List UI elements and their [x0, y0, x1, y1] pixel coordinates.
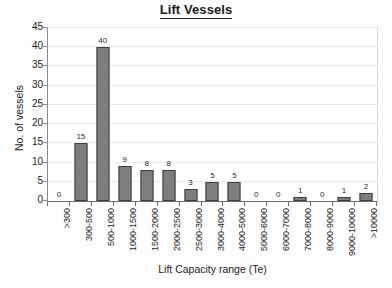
x-category-label: 8000-9000: [325, 208, 335, 251]
bar-chart: Lift Vessels No. of vessels 015409883550…: [0, 0, 392, 288]
bar-slot: 0: [245, 28, 267, 201]
bar-slot: 3: [180, 28, 202, 201]
bar-value-label: 8: [166, 159, 170, 168]
x-category-label: 500-1000: [106, 208, 116, 246]
y-tick-mark: [43, 162, 47, 163]
y-tick-mark: [43, 104, 47, 105]
bar-slot: 0: [311, 28, 333, 201]
y-tick-mark: [43, 142, 47, 143]
bar-value-label: 9: [123, 155, 127, 164]
y-tick-label: 35: [13, 59, 43, 70]
x-category-label: 6000-7000: [281, 208, 291, 251]
x-tick-mark: [376, 202, 377, 206]
x-tick-mark: [288, 202, 289, 206]
bar-value-label: 0: [276, 190, 280, 199]
bar-slot: 9: [114, 28, 136, 201]
bar-value-label: 3: [188, 178, 192, 187]
bar-value-label: 5: [210, 171, 214, 180]
bar-slot: 8: [158, 28, 180, 201]
bar-slot: 0: [48, 28, 70, 201]
x-category-label: 4000-5000: [237, 208, 247, 251]
y-tick-mark: [43, 46, 47, 47]
x-category-label: 2000-2500: [172, 208, 182, 251]
y-tick-label: 30: [13, 79, 43, 90]
bar[interactable]: [294, 197, 307, 201]
bar[interactable]: [74, 143, 87, 201]
bar[interactable]: [96, 47, 109, 201]
y-tick-label: 40: [13, 40, 43, 51]
y-tick-mark: [43, 27, 47, 28]
y-tick-label: 5: [13, 175, 43, 186]
x-category-label: 3000-4000: [216, 208, 226, 251]
x-tick-mark: [69, 202, 70, 206]
x-category-label: 2500-3000: [194, 208, 204, 251]
x-category-label: 5000-6000: [259, 208, 269, 251]
y-tick-label: 15: [13, 136, 43, 147]
x-category-label: 7000-8000: [303, 208, 313, 251]
bar[interactable]: [140, 170, 153, 201]
x-tick-mark: [113, 202, 114, 206]
x-category-label: 1000-1500: [128, 208, 138, 251]
x-category-label: 9000-10000: [347, 208, 357, 256]
y-tick-label: 20: [13, 117, 43, 128]
bar-slot: 1: [333, 28, 355, 201]
y-tick-label: 45: [13, 21, 43, 32]
x-category-label: >300: [62, 208, 72, 228]
bar-slot: 2: [355, 28, 377, 201]
y-tick-label: 0: [13, 194, 43, 205]
bar-slot: 40: [92, 28, 114, 201]
x-tick-mark: [266, 202, 267, 206]
plot-area: 01540988355001012: [47, 27, 378, 202]
bar-value-label: 0: [320, 190, 324, 199]
x-tick-mark: [47, 202, 48, 206]
bar-value-label: 0: [57, 190, 61, 199]
bar[interactable]: [118, 166, 131, 201]
x-category-label: 1500-2000: [150, 208, 160, 251]
y-tick-mark: [43, 85, 47, 86]
chart-title: Lift Vessels: [0, 2, 392, 17]
x-tick-mark: [244, 202, 245, 206]
bar[interactable]: [338, 197, 351, 201]
x-category-label: 300-500: [84, 208, 94, 241]
y-tick-label: 25: [13, 98, 43, 109]
x-tick-mark: [201, 202, 202, 206]
x-tick-mark: [332, 202, 333, 206]
bar-value-label: 1: [298, 186, 302, 195]
x-tick-mark: [179, 202, 180, 206]
bar[interactable]: [206, 182, 219, 201]
y-tick-label: 10: [13, 156, 43, 167]
bar-slot: 8: [136, 28, 158, 201]
bar-value-label: 40: [98, 36, 107, 45]
bar[interactable]: [184, 189, 197, 201]
x-tick-mark: [354, 202, 355, 206]
bar-value-label: 8: [144, 159, 148, 168]
bar-slot: 0: [267, 28, 289, 201]
bar-slot: 5: [223, 28, 245, 201]
x-category-label: >10000: [369, 208, 379, 238]
x-tick-mark: [91, 202, 92, 206]
bar-value-label: 1: [342, 186, 346, 195]
bar-slot: 1: [289, 28, 311, 201]
bar-value-label: 15: [76, 132, 85, 141]
chart-title-text: Lift Vessels: [160, 2, 233, 19]
bar[interactable]: [162, 170, 175, 201]
bar[interactable]: [228, 182, 241, 201]
x-axis-title: Lift Capacity range (Te): [47, 263, 378, 275]
y-tick-mark: [43, 200, 47, 201]
y-tick-mark: [43, 65, 47, 66]
x-tick-mark: [310, 202, 311, 206]
x-tick-mark: [135, 202, 136, 206]
y-tick-mark: [43, 181, 47, 182]
bar[interactable]: [360, 193, 373, 201]
x-tick-mark: [222, 202, 223, 206]
bar-value-label: 5: [232, 171, 236, 180]
bar-value-label: 2: [364, 182, 368, 191]
y-tick-mark: [43, 123, 47, 124]
x-tick-mark: [157, 202, 158, 206]
bar-slot: 5: [202, 28, 224, 201]
bar-slot: 15: [70, 28, 92, 201]
bar-value-label: 0: [254, 190, 258, 199]
